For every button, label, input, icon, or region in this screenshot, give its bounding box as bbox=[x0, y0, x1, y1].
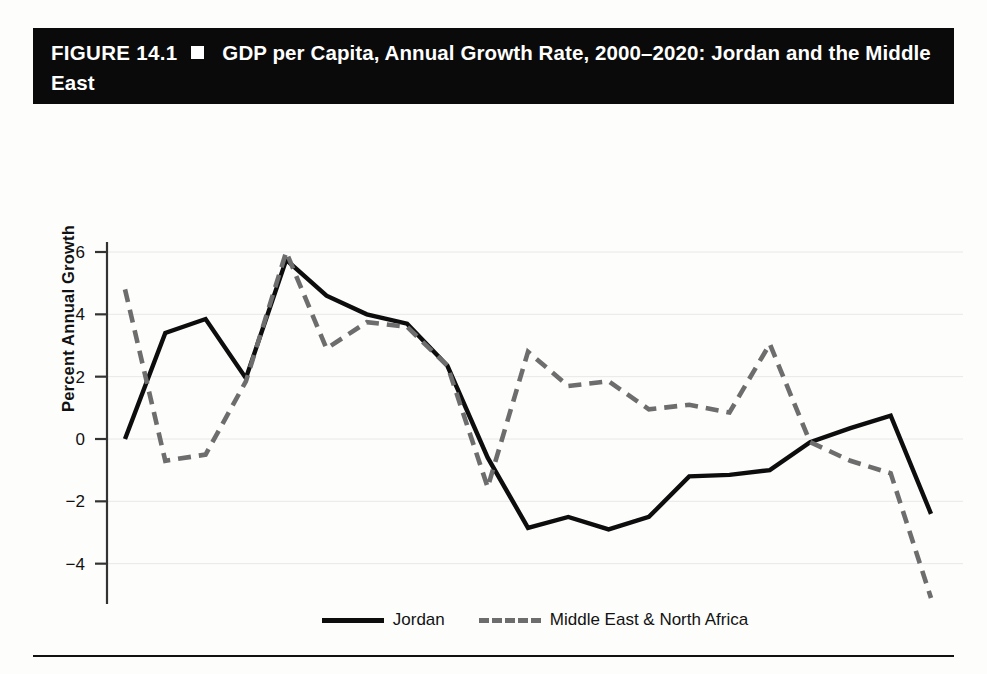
y-axis-tick-label: −4 bbox=[66, 555, 85, 574]
figure-number-label: FIGURE 14.1 bbox=[51, 41, 177, 64]
y-axis-tick-label: −2 bbox=[66, 492, 85, 511]
y-axis-tick-label: 0 bbox=[76, 430, 85, 449]
figure-title-banner: FIGURE 14.1GDP per Capita, Annual Growth… bbox=[33, 28, 954, 104]
figure-page: FIGURE 14.1GDP per Capita, Annual Growth… bbox=[0, 0, 987, 674]
y-axis-tick-label: 6 bbox=[76, 243, 85, 262]
series-line-jordan bbox=[125, 260, 931, 530]
gridlines-group bbox=[107, 252, 963, 604]
figure-title-line: FIGURE 14.1GDP per Capita, Annual Growth… bbox=[51, 38, 938, 98]
data-series-group bbox=[125, 252, 931, 598]
chart-container: Percent Annual Growth 6420−2−4−6 2000200… bbox=[0, 104, 987, 604]
y-axis-tick-label: 4 bbox=[76, 305, 85, 324]
y-axis-tick-label: 2 bbox=[76, 368, 85, 387]
y-axis: 6420−2−4−6 bbox=[66, 242, 107, 604]
figure-caption: GDP per Capita, Annual Growth Rate, 2000… bbox=[51, 41, 931, 94]
black-square-icon bbox=[191, 46, 204, 59]
legend-swatch-dashed-icon bbox=[479, 618, 541, 623]
chart-legend: Jordan Middle East & North Africa bbox=[300, 605, 770, 635]
legend-entry-mena: Middle East & North Africa bbox=[479, 610, 748, 630]
legend-swatch-solid-icon bbox=[322, 618, 384, 623]
legend-label-jordan: Jordan bbox=[393, 610, 445, 630]
legend-label-mena: Middle East & North Africa bbox=[550, 610, 748, 630]
series-line-middle-east-north-africa bbox=[125, 252, 931, 598]
footer-divider bbox=[33, 655, 954, 657]
line-chart: 6420−2−4−6 20002001200220032004200520062… bbox=[0, 104, 987, 604]
legend-entry-jordan: Jordan bbox=[322, 610, 445, 630]
